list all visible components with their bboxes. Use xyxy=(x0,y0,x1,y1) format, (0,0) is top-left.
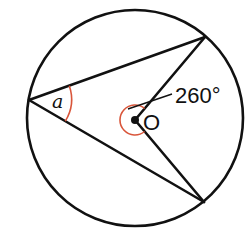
chord-left-bottom-right xyxy=(29,100,204,202)
diagram-canvas: a O 260° xyxy=(0,0,250,228)
angle-a-label: a xyxy=(52,90,63,112)
center-label: O xyxy=(143,110,160,135)
angle-leader-line xyxy=(128,94,172,109)
reflex-angle-label: 260° xyxy=(175,83,221,108)
center-point xyxy=(131,116,139,124)
angle-a-arc xyxy=(65,86,71,122)
circle-diagram: a O 260° xyxy=(0,0,250,228)
